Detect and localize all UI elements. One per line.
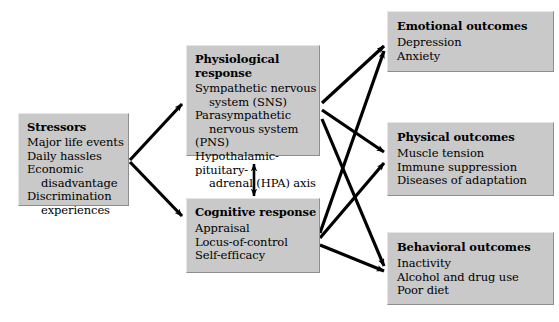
list-item: Inactivity: [397, 257, 553, 271]
list-item: adrenal (HPA) axis: [195, 177, 319, 191]
node-physical-outcomes-list: Muscle tension Immune suppression Diseas…: [397, 147, 553, 188]
node-emotional-outcomes-list: Depression Anxiety: [397, 36, 553, 63]
list-item: Anxiety: [397, 50, 553, 64]
edge-cognitive-to-emotional: [320, 51, 384, 233]
list-item: Parasympathetic: [195, 109, 319, 123]
list-item: Hypothalamic-pituitary-: [195, 150, 319, 177]
list-item: Locus-of-control: [195, 236, 319, 250]
edge-physiological-to-physical: [322, 110, 384, 152]
node-stressors[interactable]: Stressors Major life events Daily hassle…: [18, 113, 129, 206]
node-physical-outcomes-title: Physical outcomes: [397, 130, 553, 144]
list-item: Major life events: [27, 136, 128, 150]
node-emotional-outcomes-title: Emotional outcomes: [397, 19, 553, 33]
list-item: experiences: [27, 204, 128, 218]
list-item: Alcohol and drug use: [397, 271, 553, 285]
list-item: disadvantage: [27, 177, 128, 191]
node-physical-outcomes[interactable]: Physical outcomes Muscle tension Immune …: [387, 122, 554, 196]
list-item: nervous system (PNS): [195, 123, 319, 150]
node-stressors-list: Major life events Daily hassles Economic…: [27, 136, 128, 218]
edge-stressors-to-physiological: [130, 104, 182, 160]
list-item: Discrimination: [27, 190, 128, 204]
edge-cognitive-to-physical: [320, 163, 384, 238]
list-item: Depression: [397, 36, 553, 50]
node-cognitive-response-title: Cognitive response: [195, 205, 319, 219]
list-item: Daily hassles: [27, 150, 128, 164]
list-item: Muscle tension: [397, 147, 553, 161]
list-item: system (SNS): [195, 96, 319, 110]
node-physiological-response-title: Physiological response: [195, 52, 319, 80]
edge-stressors-to-cognitive: [130, 162, 182, 216]
edge-cognitive-to-behavioral: [320, 245, 384, 271]
node-stressors-title: Stressors: [27, 120, 128, 134]
node-behavioral-outcomes-list: Inactivity Alcohol and drug use Poor die…: [397, 257, 553, 298]
list-item: Self-efficacy: [195, 249, 319, 263]
node-behavioral-outcomes[interactable]: Behavioral outcomes Inactivity Alcohol a…: [387, 232, 554, 305]
list-item: Immune suppression: [397, 161, 553, 175]
list-item: Poor diet: [397, 284, 553, 298]
node-physiological-response[interactable]: Physiological response Sympathetic nervo…: [186, 45, 320, 156]
diagram-canvas: Stressors Major life events Daily hassle…: [0, 0, 559, 322]
node-behavioral-outcomes-title: Behavioral outcomes: [397, 240, 553, 254]
node-cognitive-response-list: Appraisal Locus-of-control Self-efficacy: [195, 222, 319, 263]
list-item: Diseases of adaptation: [397, 174, 553, 188]
node-physiological-response-list: Sympathetic nervous system (SNS) Parasym…: [195, 82, 319, 191]
list-item: Appraisal: [195, 222, 319, 236]
list-item: Sympathetic nervous: [195, 82, 319, 96]
node-emotional-outcomes[interactable]: Emotional outcomes Depression Anxiety: [387, 11, 554, 72]
node-cognitive-response[interactable]: Cognitive response Appraisal Locus-of-co…: [186, 198, 320, 273]
list-item: Economic: [27, 163, 128, 177]
